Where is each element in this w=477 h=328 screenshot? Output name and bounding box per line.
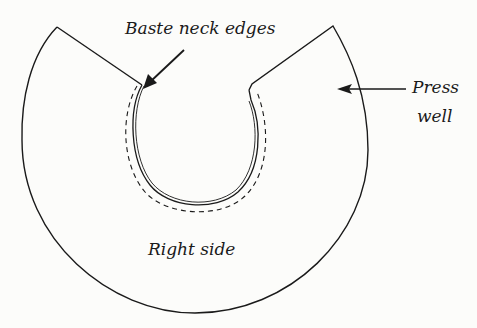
press-label: Press [412, 79, 459, 96]
collar-outline [22, 26, 368, 313]
collar-illustration [0, 0, 477, 328]
neckline-edge-inner [136, 86, 255, 202]
right-side-label: Right side [148, 241, 235, 258]
diagram-canvas: Baste neck edges Press well Right side [0, 0, 477, 328]
well-label: well [417, 108, 453, 125]
basting-stitch-line [126, 86, 266, 212]
baste-neck-edges-label: Baste neck edges [125, 20, 276, 37]
baste-arrow-shaft [150, 50, 184, 82]
